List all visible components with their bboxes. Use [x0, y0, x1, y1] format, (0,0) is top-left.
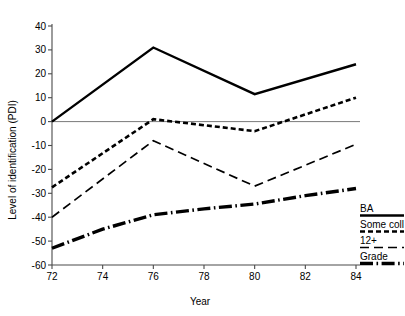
chart-container: 403020100-10-20-30-40-50-60 727476788082…	[0, 0, 405, 316]
legend-label: Grade	[360, 251, 388, 262]
legend-item-some-coll: Some coll	[360, 219, 404, 232]
y-tick-label: -30	[32, 188, 47, 199]
legend-label: 12+	[360, 235, 377, 246]
line-chart: 403020100-10-20-30-40-50-60 727476788082…	[0, 0, 405, 316]
y-tick-label: -10	[32, 140, 47, 151]
x-tick-label: 78	[198, 271, 210, 282]
y-tick-label: 10	[35, 92, 47, 103]
y-tick-label: 0	[40, 116, 46, 127]
chart-background	[0, 0, 405, 316]
y-tick-label: -40	[32, 212, 47, 223]
y-tick-label: 20	[35, 68, 47, 79]
y-tick-label: -50	[32, 236, 47, 247]
y-tick-label: 30	[35, 44, 47, 55]
x-tick-label: 82	[300, 271, 312, 282]
x-tick-label: 84	[350, 271, 362, 282]
y-axis-title: Level of identification (PDI)	[7, 100, 18, 220]
legend-label: Some coll	[360, 219, 404, 230]
x-tick-label: 74	[97, 271, 109, 282]
y-tick-label: -60	[32, 260, 47, 271]
x-tick-label: 72	[46, 271, 58, 282]
x-axis-title: Year	[190, 296, 211, 307]
y-tick-label: 40	[35, 21, 47, 32]
legend-label: BA	[360, 203, 374, 214]
x-tick-label: 80	[249, 271, 261, 282]
x-tick-label: 76	[148, 271, 160, 282]
y-tick-label: -20	[32, 164, 47, 175]
